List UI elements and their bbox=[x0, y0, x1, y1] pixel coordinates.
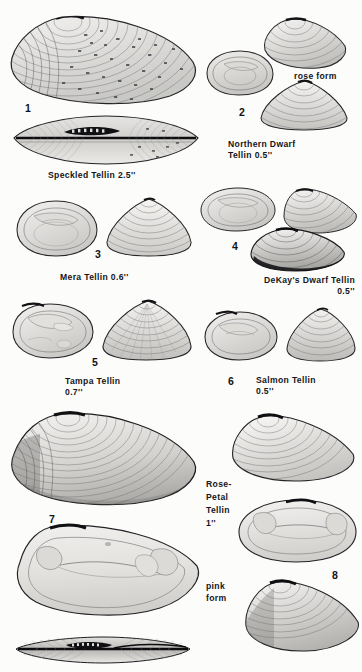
figure-2-caption: Northern Dwarf Tellin 0.5'' bbox=[228, 139, 295, 162]
figure-3-caption: Mera Tellin 0.6'' bbox=[60, 272, 129, 283]
figure-7-interior-valve bbox=[12, 520, 204, 620]
figure-8-caption: Rose- Petal Tellin 1'' bbox=[206, 478, 232, 530]
figure-3-interior-valve bbox=[14, 198, 100, 260]
figure-7-exterior-valve bbox=[6, 408, 202, 512]
figure-5-number: 5 bbox=[92, 356, 98, 368]
figure-8-exterior-valve bbox=[230, 412, 358, 484]
figure-5-interior-valve bbox=[10, 300, 96, 362]
figure-1-interior-pair bbox=[6, 112, 206, 168]
figure-5-exterior-valve bbox=[100, 298, 194, 364]
figure-4-caption: DeKay's Dwarf Tellin 0.5'' bbox=[237, 275, 355, 298]
figure-4-dark-exterior-valve bbox=[248, 226, 348, 274]
figure-2-exterior-valve bbox=[258, 78, 350, 134]
figure-8-interior-valve bbox=[236, 496, 360, 566]
figure-6-interior-valve bbox=[202, 308, 280, 364]
figure-8-pink-form-valve bbox=[244, 578, 362, 654]
shell-plate: 1 bbox=[0, 0, 362, 672]
figure-8-variant-label: pink form bbox=[206, 580, 227, 604]
figure-6-exterior-valve bbox=[284, 306, 358, 364]
figure-1-caption: Speckled Tellin 2.5'' bbox=[48, 170, 136, 181]
figure-3-exterior-valve bbox=[104, 196, 194, 260]
figure-1-exterior-valve bbox=[4, 10, 204, 110]
figure-4-number: 4 bbox=[232, 240, 238, 252]
figure-2-number: 2 bbox=[239, 106, 245, 118]
figure-6-number: 6 bbox=[228, 375, 234, 387]
figure-5-caption: Tampa Tellin 0.7'' bbox=[65, 376, 120, 399]
figure-3-number: 3 bbox=[95, 248, 101, 260]
figure-7-dorsal-hinge-view bbox=[14, 634, 192, 666]
figure-2-rose-form-valve bbox=[262, 16, 350, 72]
figure-6-caption: Salmon Tellin 0.5'' bbox=[256, 375, 316, 398]
